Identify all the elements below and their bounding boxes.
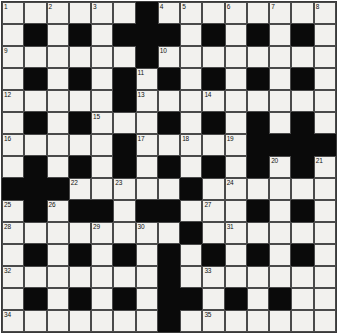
crossword-cell[interactable]: [24, 2, 46, 24]
crossword-cell[interactable]: [113, 46, 135, 68]
crossword-cell[interactable]: 4: [158, 2, 180, 24]
crossword-cell[interactable]: 27: [202, 200, 224, 222]
crossword-cell[interactable]: 22: [69, 178, 91, 200]
crossword-cell[interactable]: [91, 134, 113, 156]
crossword-cell[interactable]: 26: [47, 200, 69, 222]
crossword-cell[interactable]: [69, 266, 91, 288]
crossword-cell[interactable]: 7: [269, 2, 291, 24]
crossword-cell[interactable]: [269, 46, 291, 68]
crossword-cell[interactable]: [247, 288, 269, 310]
crossword-cell[interactable]: [314, 90, 336, 112]
crossword-cell[interactable]: [180, 244, 202, 266]
crossword-cell[interactable]: [113, 112, 135, 134]
crossword-cell[interactable]: [202, 134, 224, 156]
crossword-cell[interactable]: [136, 244, 158, 266]
crossword-cell[interactable]: [291, 178, 313, 200]
crossword-cell[interactable]: 32: [2, 266, 24, 288]
crossword-cell[interactable]: [247, 266, 269, 288]
crossword-cell[interactable]: 34: [2, 310, 24, 332]
crossword-cell[interactable]: [2, 112, 24, 134]
crossword-cell[interactable]: [314, 112, 336, 134]
crossword-cell[interactable]: [136, 310, 158, 332]
crossword-cell[interactable]: [2, 244, 24, 266]
crossword-cell[interactable]: [158, 134, 180, 156]
crossword-cell[interactable]: [47, 310, 69, 332]
crossword-cell[interactable]: [24, 266, 46, 288]
crossword-cell[interactable]: 30: [136, 222, 158, 244]
crossword-cell[interactable]: [47, 46, 69, 68]
crossword-cell[interactable]: [225, 46, 247, 68]
crossword-cell[interactable]: [91, 46, 113, 68]
crossword-cell[interactable]: [225, 310, 247, 332]
crossword-cell[interactable]: [180, 68, 202, 90]
crossword-cell[interactable]: 24: [225, 178, 247, 200]
crossword-cell[interactable]: [269, 266, 291, 288]
crossword-cell[interactable]: [269, 68, 291, 90]
crossword-cell[interactable]: [225, 68, 247, 90]
crossword-cell[interactable]: 9: [2, 46, 24, 68]
crossword-cell[interactable]: [202, 178, 224, 200]
crossword-cell[interactable]: [314, 244, 336, 266]
crossword-cell[interactable]: [24, 310, 46, 332]
crossword-cell[interactable]: [269, 310, 291, 332]
crossword-cell[interactable]: [136, 266, 158, 288]
crossword-cell[interactable]: [180, 310, 202, 332]
crossword-cell[interactable]: [91, 310, 113, 332]
crossword-cell[interactable]: [180, 24, 202, 46]
crossword-cell[interactable]: [247, 178, 269, 200]
crossword-cell[interactable]: [180, 112, 202, 134]
crossword-cell[interactable]: [314, 68, 336, 90]
crossword-cell[interactable]: [225, 90, 247, 112]
crossword-grid[interactable]: 1234567891011121314151617181920212223242…: [1, 1, 337, 333]
crossword-cell[interactable]: [47, 112, 69, 134]
crossword-cell[interactable]: [91, 266, 113, 288]
crossword-cell[interactable]: [158, 222, 180, 244]
crossword-cell[interactable]: [202, 2, 224, 24]
crossword-cell[interactable]: [180, 200, 202, 222]
crossword-cell[interactable]: 28: [2, 222, 24, 244]
crossword-cell[interactable]: [314, 310, 336, 332]
crossword-cell[interactable]: [69, 310, 91, 332]
crossword-cell[interactable]: [314, 222, 336, 244]
crossword-cell[interactable]: [2, 288, 24, 310]
crossword-cell[interactable]: [291, 266, 313, 288]
crossword-cell[interactable]: [47, 266, 69, 288]
crossword-cell[interactable]: 19: [225, 134, 247, 156]
crossword-cell[interactable]: [136, 156, 158, 178]
crossword-cell[interactable]: 14: [202, 90, 224, 112]
crossword-cell[interactable]: 33: [202, 266, 224, 288]
crossword-cell[interactable]: 8: [314, 2, 336, 24]
crossword-cell[interactable]: [91, 244, 113, 266]
crossword-cell[interactable]: [91, 24, 113, 46]
crossword-cell[interactable]: [314, 266, 336, 288]
crossword-cell[interactable]: [47, 222, 69, 244]
crossword-cell[interactable]: [247, 2, 269, 24]
crossword-cell[interactable]: 1: [2, 2, 24, 24]
crossword-cell[interactable]: [314, 24, 336, 46]
crossword-cell[interactable]: [136, 112, 158, 134]
crossword-cell[interactable]: [158, 178, 180, 200]
crossword-cell[interactable]: [180, 90, 202, 112]
crossword-cell[interactable]: [269, 90, 291, 112]
crossword-cell[interactable]: 31: [225, 222, 247, 244]
crossword-cell[interactable]: [314, 46, 336, 68]
crossword-cell[interactable]: [69, 2, 91, 24]
crossword-cell[interactable]: [2, 156, 24, 178]
crossword-cell[interactable]: [291, 90, 313, 112]
crossword-cell[interactable]: [113, 200, 135, 222]
crossword-cell[interactable]: [47, 288, 69, 310]
crossword-cell[interactable]: [269, 24, 291, 46]
crossword-cell[interactable]: [247, 222, 269, 244]
crossword-cell[interactable]: [225, 244, 247, 266]
crossword-cell[interactable]: [269, 244, 291, 266]
crossword-cell[interactable]: 13: [136, 90, 158, 112]
crossword-cell[interactable]: [269, 222, 291, 244]
crossword-cell[interactable]: 18: [180, 134, 202, 156]
crossword-cell[interactable]: 23: [113, 178, 135, 200]
crossword-cell[interactable]: [91, 288, 113, 310]
crossword-cell[interactable]: [225, 112, 247, 134]
crossword-cell[interactable]: 2: [47, 2, 69, 24]
crossword-cell[interactable]: [314, 178, 336, 200]
crossword-cell[interactable]: [136, 288, 158, 310]
crossword-cell[interactable]: [113, 2, 135, 24]
